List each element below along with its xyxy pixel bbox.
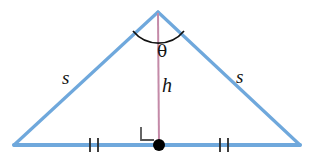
triangle-right-side [158,12,300,145]
geometry-figure: s s h θ [0,0,311,158]
side-label-left: s [62,68,69,87]
altitude-line [158,13,159,146]
height-label: h [162,75,172,95]
side-label-right: s [236,67,243,86]
apex-angle-label: θ [157,43,167,60]
triangle-diagram-svg [0,0,311,158]
right-angle-marker [141,127,154,140]
triangle-left-side [14,12,158,145]
midpoint-dot [153,139,165,151]
